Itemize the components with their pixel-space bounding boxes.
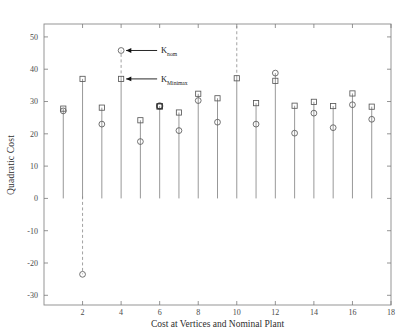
- y-tick-label: 40: [30, 65, 38, 74]
- annotation-sublabel: Minimax: [167, 80, 188, 86]
- y-tick-label: 50: [30, 33, 38, 42]
- y-tick-label: -10: [27, 227, 38, 236]
- y-tick-label: 0: [34, 194, 38, 203]
- chart-figure: Quadratic Cost Cost at Vertices and Nomi…: [0, 0, 414, 334]
- y-tick-label: 30: [30, 97, 38, 106]
- annotation-sublabel: nom: [167, 51, 178, 57]
- y-tick-label: 20: [30, 130, 38, 139]
- x-tick-label: 14: [310, 308, 318, 317]
- x-tick-label: 4: [119, 308, 123, 317]
- y-tick-label: 10: [30, 162, 38, 171]
- y-tick-label: -20: [27, 259, 38, 268]
- x-tick-label: 6: [158, 308, 162, 317]
- x-tick-label: 10: [233, 308, 241, 317]
- x-tick-label: 12: [271, 308, 279, 317]
- x-tick-label: 2: [81, 308, 85, 317]
- y-tick-label: -30: [27, 291, 38, 300]
- x-tick-label: 8: [196, 308, 200, 317]
- x-tick-label: 16: [348, 308, 356, 317]
- x-tick-label: 18: [387, 308, 395, 317]
- chart-canvas: 50403020100-10-20-3024681012141618KnomKM…: [0, 0, 414, 334]
